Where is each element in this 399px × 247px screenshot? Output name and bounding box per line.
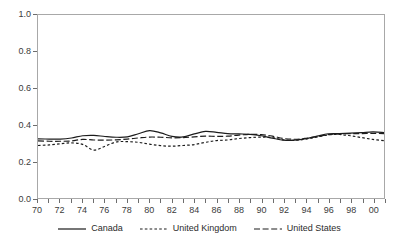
x-tick-label: 78 [122, 206, 132, 215]
x-tick-mark [116, 199, 117, 203]
plot-area [37, 14, 385, 199]
x-tick-mark [250, 199, 251, 203]
x-tick-mark [82, 199, 83, 203]
x-tick-mark [385, 199, 386, 203]
x-tick-label: 84 [189, 206, 199, 215]
x-tick-label: 74 [77, 206, 87, 215]
series-line-united-states [38, 133, 384, 141]
x-tick-label: 90 [257, 206, 267, 215]
legend-label: United States [287, 224, 341, 233]
x-tick-mark [284, 199, 285, 203]
x-tick-mark [127, 199, 128, 203]
y-tick-label: 0.6 [5, 84, 31, 93]
x-tick-mark [329, 199, 330, 203]
x-tick-mark [93, 199, 94, 203]
legend-entry-united-kingdom[interactable]: United Kingdom [140, 224, 237, 233]
x-tick-mark [138, 199, 139, 203]
y-tick-label: 0.2 [5, 158, 31, 167]
x-tick-mark [183, 199, 184, 203]
x-tick-mark [262, 199, 263, 203]
y-tick-label: 1.0 [5, 10, 31, 19]
x-tick-mark [149, 199, 150, 203]
x-tick-mark [351, 199, 352, 203]
x-tick-label: 88 [234, 206, 244, 215]
x-tick-label: 80 [144, 206, 154, 215]
x-tick-mark [194, 199, 195, 203]
x-tick-mark [295, 199, 296, 203]
legend-label: Canada [91, 224, 123, 233]
x-tick-label: 86 [212, 206, 222, 215]
line-chart-figure: 0.00.20.40.60.81.0 707274767880828486889… [0, 0, 399, 247]
legend-entry-canada[interactable]: Canada [58, 224, 123, 233]
x-tick-mark [228, 199, 229, 203]
x-tick-label: 72 [54, 206, 64, 215]
legend-swatch-dashed [254, 225, 282, 233]
x-tick-label: 00 [369, 206, 379, 215]
x-tick-mark [160, 199, 161, 203]
x-tick-label: 96 [324, 206, 334, 215]
x-tick-mark [205, 199, 206, 203]
x-tick-mark [273, 199, 274, 203]
legend-swatch-dotted [140, 225, 168, 233]
x-tick-mark [363, 199, 364, 203]
series-container [38, 15, 384, 198]
legend-label: United Kingdom [173, 224, 237, 233]
x-tick-mark [318, 199, 319, 203]
x-tick-mark [104, 199, 105, 203]
x-tick-mark [306, 199, 307, 203]
chart-legend: CanadaUnited KingdomUnited States [0, 224, 399, 233]
y-tick-label: 0.8 [5, 47, 31, 56]
y-tick-label: 0.4 [5, 121, 31, 130]
x-tick-mark [37, 199, 38, 203]
x-tick-mark [71, 199, 72, 203]
x-tick-label: 92 [279, 206, 289, 215]
x-tick-mark [59, 199, 60, 203]
x-tick-mark [172, 199, 173, 203]
x-tick-mark [48, 199, 49, 203]
legend-entry-united-states[interactable]: United States [254, 224, 341, 233]
series-line-canada [38, 131, 384, 141]
y-tick-label: 0.0 [5, 195, 31, 204]
legend-swatch-solid [58, 225, 86, 233]
x-tick-label: 76 [99, 206, 109, 215]
x-tick-label: 82 [167, 206, 177, 215]
x-tick-mark [217, 199, 218, 203]
x-tick-label: 98 [346, 206, 356, 215]
x-tick-mark [374, 199, 375, 203]
x-tick-label: 94 [301, 206, 311, 215]
x-tick-mark [239, 199, 240, 203]
x-tick-label: 70 [32, 206, 42, 215]
x-tick-mark [340, 199, 341, 203]
